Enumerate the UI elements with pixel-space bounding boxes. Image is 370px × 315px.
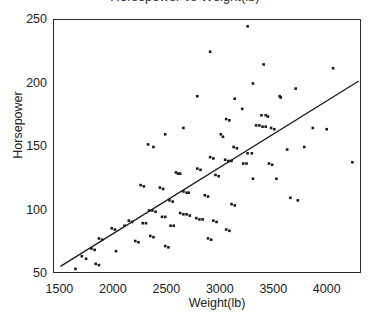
scatter-point [251,152,254,155]
scatter-point [217,175,220,178]
scatter-point [148,209,151,212]
scatter-point [123,224,126,227]
scatter-point [199,169,202,172]
scatter-point [152,236,155,239]
scatter-point [169,224,172,227]
y-axis-title-text: Horsepower [11,91,25,158]
scatter-point [110,227,113,230]
scatter-point [162,188,165,191]
scatter-point [252,82,255,85]
scatter-point [182,190,185,193]
scatter-point [94,263,97,266]
scatter-point [201,218,204,221]
scatter-plot-figure: Horsepower vs Weight(lb) 50100150200250 … [0,0,370,315]
scatter-point [214,174,217,177]
plot-canvas [54,20,362,274]
scatter-point [164,216,167,219]
y-axis-title: Horsepower [11,85,25,165]
scatter-point [209,156,212,159]
scatter-point [207,237,210,240]
scatter-point [255,124,258,127]
scatter-point [271,163,274,166]
scatter-point [114,228,117,231]
axis-ticks [54,20,328,274]
scatter-point [233,204,236,207]
scatter-point [185,213,188,216]
scatter-point [85,257,88,260]
x-tick-label: 4000 [302,283,352,295]
x-tick-label: 1500 [34,283,84,295]
x-tick-label: 2000 [88,283,138,295]
scatter-point [325,128,328,131]
scatter-point [145,222,148,225]
scatter-point [294,87,297,90]
scatter-point [258,124,261,127]
scatter-point [225,118,228,121]
scatter-point [270,127,273,130]
x-tick-label: 3500 [248,283,298,295]
scatter-point [212,157,215,160]
scatter-point [137,241,140,244]
scatter-point [161,216,164,219]
scatter-point [198,218,201,221]
scatter-point [164,133,167,136]
scatter-point [264,125,267,128]
x-axis-title-text: Weight(lb) [189,296,246,310]
scatter-point [101,238,104,241]
x-tick-label: 2500 [141,283,191,295]
scatter-point [182,213,185,216]
regression-trendline [60,81,358,266]
scatter-point [222,136,225,139]
scatter-point [232,146,235,149]
scatter-point [252,177,255,180]
scatter-point [147,143,150,146]
scatter-point [149,235,152,238]
scatter-point [246,25,249,28]
scatter-point [159,186,162,189]
scatter-point [236,147,239,150]
scatter-point [115,250,118,253]
scatter-point [260,114,263,117]
scatter-point [143,185,146,188]
scatter-point [242,162,245,165]
scatter-point [230,160,233,163]
scatter-point [90,247,93,250]
scatter-point [134,240,137,243]
scatter-point [233,97,236,100]
scatter-point [351,161,354,164]
scatter-point [154,210,157,213]
scatter-point [151,209,154,212]
scatter-point [279,96,282,99]
scatter-point [98,264,101,267]
scatter-point [230,203,233,206]
scatter-point [245,162,248,165]
scatter-point [268,162,271,165]
scatter-point [179,212,182,215]
scatter-point [267,115,270,118]
scatter-point [196,95,199,98]
scatter-point [141,222,144,225]
scatter-point [207,195,210,198]
scatter-point [203,194,206,197]
scatter-point [74,268,77,271]
x-axis-title: Weight(lb) [0,296,370,310]
scatter-point [215,221,218,224]
scatter-point [246,152,249,155]
scatter-point [228,119,231,122]
scatter-point [189,214,192,217]
scatter-point [172,224,175,227]
scatter-point [196,167,199,170]
scatter-point [209,50,212,53]
scatter-point [312,127,315,130]
scatter-point [152,146,155,149]
scatter-point [195,217,198,220]
scatter-point [167,246,170,249]
x-tick-label: 3000 [195,283,245,295]
scatter-point [179,172,182,175]
scatter-point [224,158,227,161]
scatter-point [98,237,101,240]
scatter-point [210,238,213,241]
scatter-point [182,127,185,130]
scatter-points [74,25,354,270]
scatter-point [128,219,131,222]
